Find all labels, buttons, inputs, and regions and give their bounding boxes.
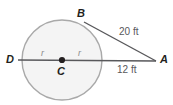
point-label-c: C [57, 66, 65, 77]
point-label-d: D [6, 54, 14, 65]
geometry-canvas [0, 0, 173, 105]
radius-label-left: r [41, 49, 44, 58]
point-label-b: B [77, 8, 85, 19]
geometry-diagram: B A D C r r 20 ft 12 ft [0, 0, 173, 105]
center-point-marker [59, 57, 65, 63]
radius-label-right: r [78, 49, 81, 58]
secant-line-DA [18, 60, 156, 61]
point-label-a: A [160, 54, 168, 65]
dimension-label-tangent: 20 ft [119, 27, 138, 37]
dimension-label-external: 12 ft [117, 65, 136, 75]
